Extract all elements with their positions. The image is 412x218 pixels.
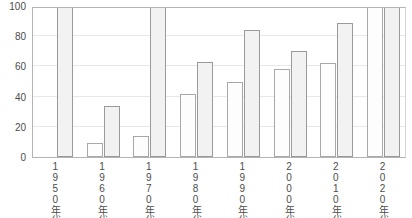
y-tick-label: 80 xyxy=(15,32,26,42)
x-tick-label: 1960年代 xyxy=(97,161,108,218)
bar xyxy=(57,7,73,157)
y-tick-label: 100 xyxy=(9,2,26,12)
bar xyxy=(291,51,307,157)
y-tick-label: 60 xyxy=(15,62,26,72)
x-tick-label: 2010年代 xyxy=(330,161,341,218)
y-tick-label: 20 xyxy=(15,123,26,133)
bar xyxy=(274,69,290,157)
x-tick-label: 2000年代 xyxy=(284,161,295,218)
x-tick-label: 1980年代 xyxy=(190,161,201,218)
bar xyxy=(104,106,120,157)
bar xyxy=(133,136,149,157)
bar xyxy=(87,143,103,157)
bars-layer xyxy=(33,8,405,157)
bar xyxy=(244,30,260,157)
bar xyxy=(384,7,400,157)
bar xyxy=(180,94,196,157)
bar xyxy=(227,82,243,158)
x-axis: 1950年代1960年代1970年代1980年代1990年代2000年代2010… xyxy=(32,159,406,218)
x-tick-label: 1970年代 xyxy=(143,161,154,218)
bar xyxy=(367,7,383,157)
bar xyxy=(150,7,166,157)
x-tick-label: 1950年代 xyxy=(50,161,61,218)
bar xyxy=(197,62,213,157)
plot-area xyxy=(32,7,406,158)
bar xyxy=(320,63,336,157)
bar-chart: 020406080100 1950年代1960年代1970年代1980年代199… xyxy=(0,0,412,218)
y-axis: 020406080100 xyxy=(0,0,30,158)
bar xyxy=(337,23,353,157)
y-tick-label: 0 xyxy=(20,153,26,163)
y-tick-label: 40 xyxy=(15,93,26,103)
x-tick-label: 1990年代 xyxy=(237,161,248,218)
x-tick-label: 2020年代 xyxy=(377,161,388,218)
